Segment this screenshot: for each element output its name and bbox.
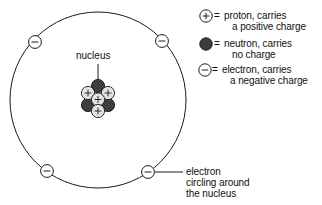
electron-top-left xyxy=(29,36,42,49)
neutron-symbol xyxy=(200,38,212,50)
legend-neutron-line1: neutron, carries xyxy=(224,38,292,50)
proton-bottom xyxy=(91,104,104,117)
nucleus-cluster xyxy=(81,79,114,117)
legend-electron-line2: a negative charge xyxy=(230,75,308,87)
electron-callout-line2: circling around xyxy=(186,177,250,189)
electron-top-right xyxy=(156,35,169,48)
electron-callout-line1: electron xyxy=(186,166,221,178)
legend-electron-line1: electron, carries xyxy=(222,64,291,76)
legend-equals-proton: = xyxy=(214,10,220,21)
electron-callout-line3: the nucleus xyxy=(186,188,236,200)
atom-diagram-figure: nucleus = proton, carries a positive cha… xyxy=(0,0,322,205)
proton-symbol xyxy=(200,10,212,22)
electron-bottom-left xyxy=(41,165,54,178)
nucleus-label: nucleus xyxy=(76,50,110,62)
legend-neutron-line2: no charge xyxy=(232,49,276,61)
legend-equals-neutron: = xyxy=(214,38,220,49)
legend-equals-electron: = xyxy=(212,64,218,75)
legend-proton-line1: proton, carries xyxy=(224,10,286,22)
electron-symbol xyxy=(199,64,211,76)
legend-proton-line2: a positive charge xyxy=(232,21,306,33)
electron-bottom-right xyxy=(142,166,155,179)
